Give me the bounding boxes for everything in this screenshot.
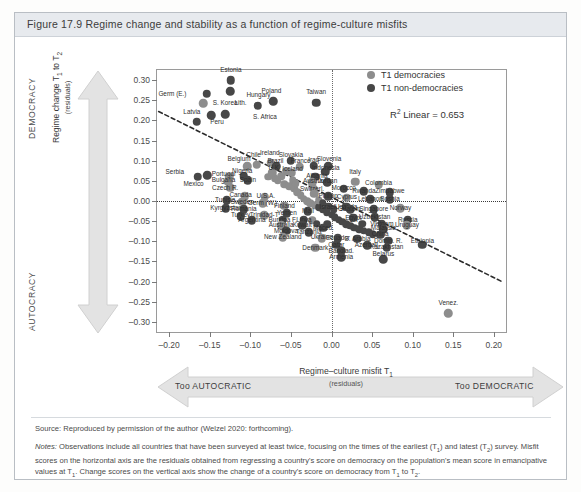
- scatter-point-label: Venez.: [439, 299, 459, 305]
- y-axis-tick: [152, 120, 157, 121]
- y-axis-tick-label: 0.20: [133, 115, 150, 125]
- y-axis-title-text: Regime change T1 to T2: [51, 52, 61, 143]
- x-axis-tick: [250, 332, 251, 337]
- x-axis-tick-label: 0.05: [364, 340, 381, 350]
- scatter-point-label: Israel: [320, 203, 336, 209]
- x-axis-tick: [332, 332, 333, 337]
- x-axis-tick: [372, 332, 373, 337]
- scatter-point-label: Indonesia: [312, 165, 340, 171]
- scatter-point-label: Italy: [349, 168, 361, 174]
- democracy-autocracy-arrow: [77, 71, 119, 333]
- legend-label-democracies: T1 democracies: [381, 70, 445, 80]
- democracy-label: DEMOCRACY: [27, 78, 37, 139]
- y-axis-tick-label: –0.10: [129, 236, 150, 246]
- r2-prefix: R: [390, 109, 397, 120]
- y-axis-tick-label: –0.25: [129, 297, 150, 307]
- y-axis-tick-label: –0.30: [129, 317, 150, 327]
- y-axis-tick-label: 0.10: [133, 156, 150, 166]
- scatter-point[interactable]: [226, 87, 235, 96]
- legend-dot-non-democracies-icon: [367, 84, 375, 92]
- y-axis-tick: [152, 141, 157, 142]
- legend-dot-democracies-icon: [367, 71, 375, 79]
- scatter-point-label: Latvia: [183, 109, 200, 115]
- scatter-point-label: Singapore: [359, 206, 388, 212]
- y-axis-tick: [152, 161, 157, 162]
- scatter-point-label: Zimbabwe: [375, 188, 404, 194]
- scatter-point-label: Estonia: [220, 66, 241, 72]
- source-note: Source: Reproduced by permission of the …: [35, 424, 293, 433]
- scatter-point-label: Norway: [390, 205, 412, 211]
- scatter-point-label: Ethiopia: [411, 237, 434, 243]
- too-autocratic-label: Too AUTOCRATIC: [175, 381, 251, 391]
- x-axis-tick: [169, 332, 170, 337]
- scatter-point[interactable]: [202, 90, 211, 99]
- y-axis-tick: [152, 282, 157, 283]
- legend-label-non-democracies: T1 non-democracies: [381, 83, 463, 93]
- figure-container: Figure 17.9 Regime change and stability …: [14, 12, 567, 480]
- scatter-point-label: Argentina: [238, 216, 265, 222]
- y-axis-tick: [152, 322, 157, 323]
- scatter-point[interactable]: [227, 76, 236, 85]
- x-axis-tick-label: –0.10: [240, 340, 261, 350]
- y-axis-tick-label: 0.00: [133, 196, 150, 206]
- x-axis-tick-label: –0.20: [159, 340, 180, 350]
- too-democratic-label: Too DEMOCRATIC: [455, 381, 534, 391]
- y-axis-tick-label: –0.20: [129, 277, 150, 287]
- scatter-point[interactable]: [444, 309, 453, 318]
- y-axis-tick: [152, 100, 157, 101]
- y-axis-title: Regime change T1 to T2 (residuals): [51, 52, 72, 143]
- notes-line-1: Observations include all countries that …: [57, 442, 519, 451]
- y-axis-tick-label: 0.30: [133, 75, 150, 85]
- y-axis-tick: [152, 241, 157, 242]
- x-axis-title-text: Regime–culture misfit T1: [299, 366, 393, 376]
- r2-exponent: 2: [397, 108, 401, 115]
- x-axis-tick: [291, 332, 292, 337]
- legend-item-non-democracies[interactable]: T1 non-democracies: [367, 83, 463, 93]
- r2-value: Linear = 0.653: [403, 109, 464, 120]
- scatter-point-label: Germ (E.): [158, 91, 186, 97]
- scatter-point[interactable]: [199, 99, 208, 108]
- x-axis-tick-label: 0.20: [486, 340, 503, 350]
- y-axis-tick-label: 0.15: [133, 136, 150, 146]
- footer-divider: [31, 417, 551, 418]
- scatter-point[interactable]: [310, 189, 319, 198]
- y-axis-tick: [152, 80, 157, 81]
- scatter-point-label: U.K.: [268, 165, 280, 171]
- scatter-point-label: Denmark: [302, 245, 328, 251]
- y-axis-subtitle: (residuals): [63, 52, 72, 143]
- scatter-point[interactable]: [253, 160, 262, 169]
- legend: T1 democracies T1 non-democracies: [367, 70, 463, 96]
- legend-item-democracies[interactable]: T1 democracies: [367, 70, 463, 80]
- autocracy-label: AUTOCRACY: [27, 272, 37, 331]
- scatter-point-label: Armenia: [329, 254, 353, 260]
- scatter-point-label: Slovenia: [317, 156, 342, 162]
- scatter-point[interactable]: [203, 171, 212, 180]
- x-axis-tick-label: –0.05: [280, 340, 301, 350]
- scatter-point-label: Cyprus: [337, 194, 357, 200]
- scatter-point[interactable]: [312, 98, 321, 107]
- scatter-point-label: Iceland: [282, 166, 303, 172]
- scatter-point-label: Spain: [240, 177, 256, 183]
- x-axis-tick-label: 0.00: [323, 340, 340, 350]
- scatter-point[interactable]: [193, 118, 202, 127]
- r-squared-annotation: R2 Linear = 0.653: [390, 108, 464, 120]
- scatter-point-label: Guatem.: [338, 206, 363, 212]
- scatter-point[interactable]: [292, 180, 300, 188]
- scatter-point-label: Mexico: [183, 181, 203, 187]
- scatter-point[interactable]: [269, 97, 278, 106]
- x-axis-tick-label: –0.15: [199, 340, 220, 350]
- scatter-point-label: Poland: [261, 87, 281, 93]
- scatter-point[interactable]: [253, 102, 262, 111]
- scatter-point-label: Taiwan: [306, 89, 326, 95]
- scatter-point-label: S. Africa: [253, 114, 277, 120]
- y-axis-tick-label: –0.15: [129, 256, 150, 266]
- y-axis-tick: [152, 181, 157, 182]
- scatter-point-label: Egypt: [345, 215, 361, 221]
- x-axis-subtitle: (residuals): [251, 379, 441, 388]
- scatter-point-label: U.S.A.: [257, 193, 275, 199]
- scatter-point-label: Peru: [210, 119, 224, 125]
- y-axis-tick-label: 0.05: [133, 176, 150, 186]
- x-axis-tick: [413, 332, 414, 337]
- notes-block: Notes: Observations include all countrie…: [35, 441, 551, 480]
- scatter-point-label: Belarus: [373, 251, 395, 257]
